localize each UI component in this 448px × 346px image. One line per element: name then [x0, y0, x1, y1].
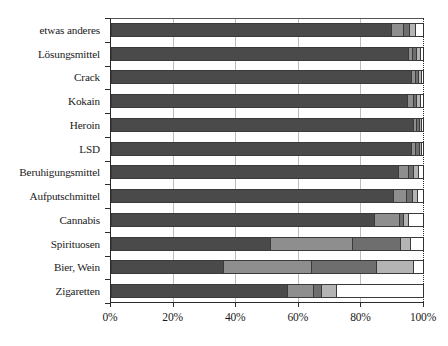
x-axis-tick-label: 60% [288, 311, 308, 323]
bar-segment [112, 143, 411, 155]
bar-segment [112, 190, 393, 202]
y-axis-tick [105, 161, 110, 162]
stacked-bar [111, 165, 424, 179]
y-axis-label: Lösungsmittel [38, 48, 100, 60]
stacked-bar [111, 142, 424, 156]
bar-segment [270, 238, 352, 250]
bar-segment [321, 285, 336, 297]
bar-segment [374, 214, 398, 226]
stacked-bar [111, 23, 424, 37]
y-axis-tick [105, 42, 110, 43]
bar-segment [393, 190, 406, 202]
stacked-bar [111, 118, 424, 132]
bar-row [111, 284, 424, 298]
bar-row [111, 213, 424, 227]
stacked-bar [111, 260, 424, 274]
bar-row [111, 70, 424, 84]
bar-segment [112, 285, 287, 297]
y-axis-tick [105, 89, 110, 90]
stacked-bar [111, 189, 424, 203]
bar-row [111, 23, 424, 37]
x-axis-tick-label: 0% [103, 311, 118, 323]
y-axis-label: Heroin [70, 119, 100, 131]
x-axis-tick-label: 100% [410, 311, 436, 323]
y-axis-label: Spirituosen [51, 238, 100, 250]
bar-segment [112, 24, 391, 36]
x-axis-tick [110, 302, 111, 307]
bar-segment [415, 24, 423, 36]
bar-segment [336, 285, 423, 297]
x-axis-tick-label: 80% [350, 311, 370, 323]
y-axis-label: Beruhigungsmittel [19, 166, 100, 178]
x-axis-tick [360, 302, 361, 307]
bar-row [111, 165, 424, 179]
bar-row [111, 260, 424, 274]
stacked-bar [111, 94, 424, 108]
y-axis-label: Bier, Wein [54, 261, 100, 273]
plot-area [110, 18, 423, 303]
stacked-bar [111, 213, 424, 227]
y-axis-tick [105, 184, 110, 185]
stacked-bar [111, 237, 424, 251]
x-axis-tick [298, 302, 299, 307]
y-axis-tick [105, 18, 110, 19]
y-axis-label: etwas anderes [40, 24, 100, 36]
x-axis-tick [173, 302, 174, 307]
y-axis-label: Zigaretten [56, 285, 100, 297]
bar-segment [352, 238, 399, 250]
bar-segment [112, 261, 223, 273]
y-axis-tick [105, 113, 110, 114]
y-axis-labels: etwas anderesLösungsmittelCrackKokainHer… [0, 18, 106, 303]
stacked-bar [111, 47, 424, 61]
bar-segment [223, 261, 312, 273]
stacked-bar [111, 70, 424, 84]
bar-segment [112, 238, 270, 250]
bar-segment [408, 214, 423, 226]
bar-segment [311, 261, 376, 273]
y-axis-label: Aufputschmittel [30, 190, 100, 202]
bar-row [111, 142, 424, 156]
bar-segment [391, 24, 403, 36]
stacked-bar [111, 284, 424, 298]
x-axis-line [110, 302, 424, 303]
bar-segment [410, 238, 423, 250]
bar-segment [112, 166, 398, 178]
bar-row [111, 189, 424, 203]
bar-row [111, 94, 424, 108]
bar-segment [112, 48, 408, 60]
bar-row [111, 237, 424, 251]
bar-segment [112, 119, 413, 131]
y-axis-tick [105, 303, 110, 304]
bar-row [111, 118, 424, 132]
bar-segment [400, 238, 411, 250]
y-axis-label: LSD [79, 143, 100, 155]
bar-segment [112, 71, 411, 83]
x-axis-tick-label: 20% [162, 311, 182, 323]
bar-segment [287, 285, 313, 297]
x-axis-tick [423, 302, 424, 307]
y-axis-tick [105, 256, 110, 257]
y-axis-label: Kokain [68, 95, 100, 107]
x-axis-tick-label: 40% [225, 311, 245, 323]
bar-segment [376, 261, 412, 273]
bar-segment [112, 95, 407, 107]
y-axis-tick [105, 66, 110, 67]
bar-segment [398, 166, 408, 178]
y-axis-tick [105, 232, 110, 233]
stacked-bar-chart: etwas anderesLösungsmittelCrackKokainHer… [0, 0, 448, 346]
bar-row [111, 47, 424, 61]
y-axis-tick [105, 137, 110, 138]
y-axis-label: Cannabis [60, 214, 100, 226]
y-axis-tick [105, 208, 110, 209]
y-axis-label: Crack [74, 71, 100, 83]
bar-segment [112, 214, 374, 226]
bar-segment [313, 285, 322, 297]
plot-frame-right [423, 18, 424, 304]
y-axis-tick [105, 279, 110, 280]
bar-segment [413, 261, 423, 273]
x-axis-tick [235, 302, 236, 307]
